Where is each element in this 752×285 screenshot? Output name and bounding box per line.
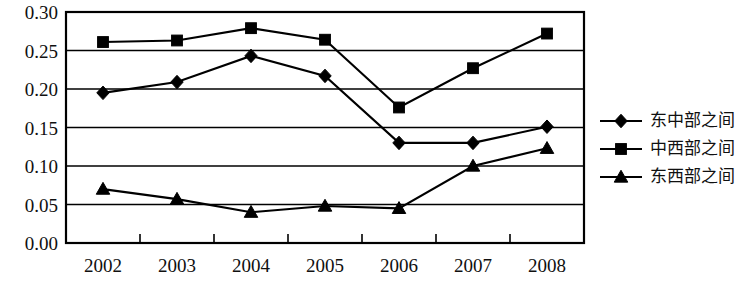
data-point-marker bbox=[468, 63, 479, 74]
y-axis-tick-labels: 0.300.250.200.150.100.050.00 bbox=[25, 2, 58, 254]
legend-marker bbox=[616, 144, 627, 155]
y-axis-tick-label: 0.00 bbox=[25, 233, 58, 254]
x-axis-tick-label: 2002 bbox=[84, 255, 122, 276]
legend-item-diamond: 东中部之间 bbox=[600, 110, 735, 130]
line-chart-svg: 0.300.250.200.150.100.050.00 20022003200… bbox=[0, 0, 752, 285]
data-point-marker bbox=[98, 37, 109, 48]
y-axis-tick-label: 0.15 bbox=[25, 118, 58, 139]
chart-legend: 东中部之间中西部之间东西部之间 bbox=[600, 110, 735, 186]
data-point-marker bbox=[467, 136, 479, 150]
data-point-marker bbox=[541, 120, 553, 133]
y-axis-tick-label: 0.05 bbox=[25, 195, 58, 216]
legend-marker bbox=[615, 114, 627, 128]
y-axis-tick-label: 0.20 bbox=[25, 79, 58, 100]
y-axis-tick-label: 0.25 bbox=[25, 41, 58, 62]
legend-label: 东中部之间 bbox=[650, 110, 735, 130]
legend-label: 东西部之间 bbox=[650, 166, 735, 186]
series-square bbox=[98, 23, 553, 113]
data-point-marker bbox=[96, 182, 110, 194]
legend-item-triangle: 东西部之间 bbox=[600, 166, 735, 186]
x-axis-tick-label: 2008 bbox=[528, 255, 566, 276]
series-lines bbox=[96, 23, 554, 218]
legend-item-square: 中西部之间 bbox=[600, 138, 735, 158]
x-axis-tick-label: 2003 bbox=[158, 255, 196, 276]
x-axis-tickmarks bbox=[140, 234, 510, 243]
data-point-marker bbox=[97, 86, 109, 100]
data-point-marker bbox=[172, 35, 183, 46]
data-point-marker bbox=[246, 23, 257, 34]
series-triangle bbox=[96, 142, 554, 218]
x-axis-tick-label: 2004 bbox=[232, 255, 271, 276]
data-point-marker bbox=[171, 75, 183, 89]
x-axis-tick-label: 2005 bbox=[306, 255, 344, 276]
y-axis-tick-label: 0.30 bbox=[25, 2, 58, 23]
data-point-marker bbox=[542, 28, 553, 39]
x-axis-tick-label: 2007 bbox=[454, 255, 492, 276]
data-point-marker bbox=[320, 34, 331, 45]
data-point-marker bbox=[540, 142, 554, 154]
x-axis-tick-label: 2006 bbox=[380, 255, 418, 276]
data-point-marker bbox=[394, 102, 405, 113]
x-axis-tick-labels: 2002200320042005200620072008 bbox=[84, 255, 566, 276]
chart-figure: 0.300.250.200.150.100.050.00 20022003200… bbox=[0, 0, 752, 285]
y-axis-tick-label: 0.10 bbox=[25, 156, 58, 177]
legend-label: 中西部之间 bbox=[650, 138, 735, 158]
series-diamond bbox=[97, 49, 553, 150]
